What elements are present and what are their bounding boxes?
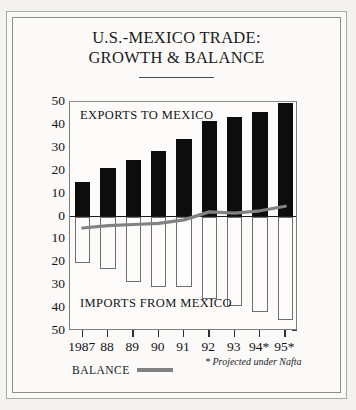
x-axis-tick-label: 91 <box>176 339 190 355</box>
y-axis-tick-label: 30 <box>39 277 65 291</box>
y-axis-labels: 504030201001020304050 <box>35 101 65 330</box>
x-axis-tick <box>259 330 260 337</box>
title-line-2: GROWTH & BALANCE <box>12 48 341 68</box>
legend-balance-label: BALANCE <box>72 364 130 376</box>
chart-page: U.S.-MEXICO TRADE: GROWTH & BALANCE BILL… <box>0 0 356 410</box>
x-axis-tick <box>132 330 133 337</box>
x-axis-tick-label: 89 <box>126 339 140 355</box>
x-axis-tick <box>234 330 235 337</box>
y-axis-tick-label: 30 <box>39 140 65 154</box>
x-axis-tick-label: 95* <box>274 339 294 355</box>
imports-series-label: IMPORTS FROM MEXICO <box>80 296 232 311</box>
x-axis-tick <box>82 330 83 337</box>
title-line-1: U.S.-MEXICO TRADE: <box>92 28 261 47</box>
x-axis-tick-label: 92 <box>202 339 216 355</box>
y-axis-tick-label: 20 <box>39 163 65 177</box>
x-axis-tick-label: 93 <box>227 339 241 355</box>
legend-balance-swatch <box>137 368 173 372</box>
x-axis-tick-label: 1987 <box>68 339 95 355</box>
y-axis-tick-label: 40 <box>39 117 65 131</box>
y-axis-tick-label: 20 <box>39 254 65 268</box>
y-axis-tick-label: 50 <box>39 94 65 108</box>
x-axis-tick <box>208 330 209 337</box>
y-axis-tick-label: 10 <box>39 231 65 245</box>
balance-polyline <box>83 206 286 228</box>
x-axis-tick <box>107 330 108 337</box>
y-axis-tick-label: 10 <box>39 186 65 200</box>
x-axis-tick-label: 94* <box>249 339 269 355</box>
y-axis-tick-label: 50 <box>39 323 65 337</box>
x-axis-tick <box>158 330 159 337</box>
chart-title: U.S.-MEXICO TRADE: GROWTH & BALANCE <box>12 28 341 68</box>
x-axis-tick-label: 88 <box>100 339 114 355</box>
footnote: * Projected under Nafta <box>205 356 302 367</box>
x-axis-tick-label: 90 <box>151 339 165 355</box>
x-axis-tick <box>183 330 184 337</box>
x-axis-tick <box>284 330 285 337</box>
y-axis-tick-label: 0 <box>39 209 65 223</box>
legend: BALANCE <box>72 364 173 376</box>
y-axis-tick-label: 40 <box>39 300 65 314</box>
title-divider <box>139 77 214 78</box>
exports-series-label: EXPORTS TO MEXICO <box>80 108 213 123</box>
